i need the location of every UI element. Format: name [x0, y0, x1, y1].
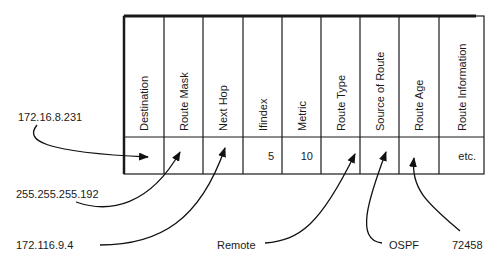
cell-value-ifindex: 5: [268, 150, 274, 162]
column-header-next-hop: Next Hop: [217, 85, 229, 131]
column-header-metric: Metric: [296, 101, 308, 131]
column-header-route-type: Route Type: [335, 75, 347, 131]
column-header-source-of-route: Source of Route: [374, 52, 386, 132]
arrow-route-age: [413, 158, 460, 231]
arrow-source-of-route: [367, 152, 386, 243]
arrow-route-type: [265, 154, 355, 243]
arrow-next-hop: [100, 148, 225, 245]
cell-value-metric: 10: [301, 150, 313, 162]
column-header-route-information: Route Information: [456, 44, 468, 131]
column-header-ifindex: Ifindex: [257, 98, 269, 131]
cell-value-route-information: etc.: [458, 150, 476, 162]
callout-route-mask: 255.255.255.192: [16, 188, 99, 200]
callout-source-of-route: OSPF: [389, 239, 419, 251]
column-header-destination: Destination: [138, 76, 150, 131]
callout-next-hop: 172.116.9.4: [16, 239, 73, 251]
column-header-route-mask: Route Mask: [178, 72, 190, 131]
column-header-route-age: Route Age: [413, 80, 425, 131]
callout-destination: 172.16.8.231: [18, 111, 82, 123]
routing-table-diagram: DestinationRoute MaskNext HopIfindexMetr…: [0, 0, 502, 262]
callout-route-age: 72458: [452, 239, 483, 251]
routing-table: DestinationRoute MaskNext HopIfindexMetr…: [124, 16, 484, 174]
callout-route-type: Remote: [217, 239, 256, 251]
arrow-destination: [34, 125, 148, 157]
